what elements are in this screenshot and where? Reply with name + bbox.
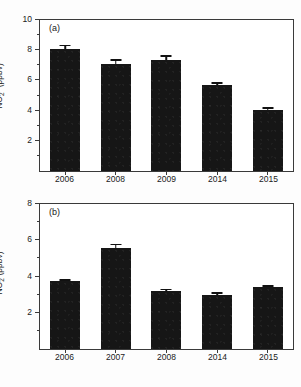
panel-a-plot-area: (a) 2 4 6 8 10 <box>39 19 294 172</box>
panel-b-xlabel-2014: 2014 <box>203 352 233 362</box>
panel-b-bar-rect-2006 <box>50 281 80 349</box>
panel-b-xlabel-2015: 2015 <box>254 352 284 362</box>
panel-b-errorcap-2008 <box>161 289 172 291</box>
panel-a-ytick-label-4: 4 <box>27 105 35 115</box>
panel-a-y-axis-title-subscript: 2 <box>0 92 5 96</box>
panel-b-bar-2008 <box>151 204 181 349</box>
panel-a-bar-rect-2006 <box>50 49 80 171</box>
panel-a-bar-rect-2009 <box>151 60 181 171</box>
panel-a-y-axis-title-superscript: * <box>0 90 1 93</box>
panel-b-bar-rect-2008 <box>151 291 181 349</box>
panel-a-errorcap-2006 <box>60 45 71 47</box>
panel-a-bar-group <box>40 20 293 171</box>
panel-b: NO2*(ppbv) (b) 2 4 6 8 20062007200820142… <box>0 195 301 387</box>
panel-b-errorcap-2007 <box>110 244 121 246</box>
panel-a-xlabel-2009: 2009 <box>152 174 182 184</box>
panel-b-plot-area: (b) 2 4 6 8 <box>39 203 294 350</box>
panel-b-bar-group <box>40 204 293 349</box>
panel-b-bar-rect-2007 <box>101 248 131 350</box>
panel-a-xlabel-2006: 2006 <box>50 174 80 184</box>
panel-a-errorcap-2014 <box>212 82 223 84</box>
panel-a-bar-rect-2014 <box>202 85 232 171</box>
panel-a-y-axis-title: NO2* (ppbv) <box>0 63 5 109</box>
panel-a-bar-2014 <box>202 20 232 171</box>
panel-a-bar-2008 <box>101 20 131 171</box>
panel-b-errorcap-2006 <box>60 279 71 281</box>
panel-b-ytick-label-4: 4 <box>27 271 35 281</box>
panel-a-errorcap-2015 <box>262 107 273 109</box>
panel-b-bar-2007 <box>101 204 131 349</box>
panel-a-y-axis-title-suffix: (ppbv) <box>0 63 4 89</box>
panel-b-bar-rect-2014 <box>202 295 232 349</box>
panel-b-y-axis-title-subscript: 2 <box>0 278 5 282</box>
figure-container: NO2* (ppbv) (a) 2 4 6 8 10 2006200820092… <box>0 0 301 387</box>
panel-a-ytick-label-8: 8 <box>27 44 35 54</box>
panel-a-bar-2009 <box>151 20 181 171</box>
panel-a-xlabel-2008: 2008 <box>101 174 131 184</box>
panel-a-errorcap-2009 <box>161 55 172 57</box>
panel-a-ytick-label-10: 10 <box>22 14 34 24</box>
panel-a-bar-rect-2015 <box>253 110 283 171</box>
panel-b-xlabel-2006: 2006 <box>50 352 80 362</box>
panel-b-y-axis-title: NO2*(ppbv) <box>0 251 5 294</box>
panel-a-y-axis-title-prefix: NO <box>0 96 4 109</box>
panel-b-ytick-label-2: 2 <box>27 307 35 317</box>
panel-b-errorcap-2014 <box>212 292 223 294</box>
panel-a-errorcap-2008 <box>110 59 121 61</box>
panel-b-bar-rect-2015 <box>253 287 283 349</box>
panel-a-ytick-label-6: 6 <box>27 74 35 84</box>
panel-b-bar-2006 <box>50 204 80 349</box>
panel-a-xlabel-2015: 2015 <box>254 174 284 184</box>
panel-a: NO2* (ppbv) (a) 2 4 6 8 10 2006200820092… <box>0 0 301 195</box>
panel-b-bar-2015 <box>253 204 283 349</box>
panel-a-bar-2015 <box>253 20 283 171</box>
panel-a-ytick-label-2: 2 <box>27 135 35 145</box>
panel-b-ytick-label-6: 6 <box>27 234 35 244</box>
panel-b-ytick-label-8: 8 <box>27 198 35 208</box>
panel-b-xlabel-2008: 2008 <box>152 352 182 362</box>
panel-a-bar-2006 <box>50 20 80 171</box>
panel-a-xlabel-2014: 2014 <box>203 174 233 184</box>
panel-b-y-axis-title-superscript: * <box>0 275 1 278</box>
panel-b-bar-2014 <box>202 204 232 349</box>
panel-a-x-axis-labels: 20062008200920142015 <box>39 174 294 184</box>
panel-b-y-axis-title-prefix: NO <box>0 282 4 295</box>
panel-b-y-axis-title-suffix: (ppbv) <box>0 251 4 275</box>
panel-b-errorcap-2015 <box>262 285 273 287</box>
panel-a-bar-rect-2008 <box>101 64 131 171</box>
panel-b-x-axis-labels: 20062007200820142015 <box>39 352 294 362</box>
panel-b-xlabel-2007: 2007 <box>101 352 131 362</box>
